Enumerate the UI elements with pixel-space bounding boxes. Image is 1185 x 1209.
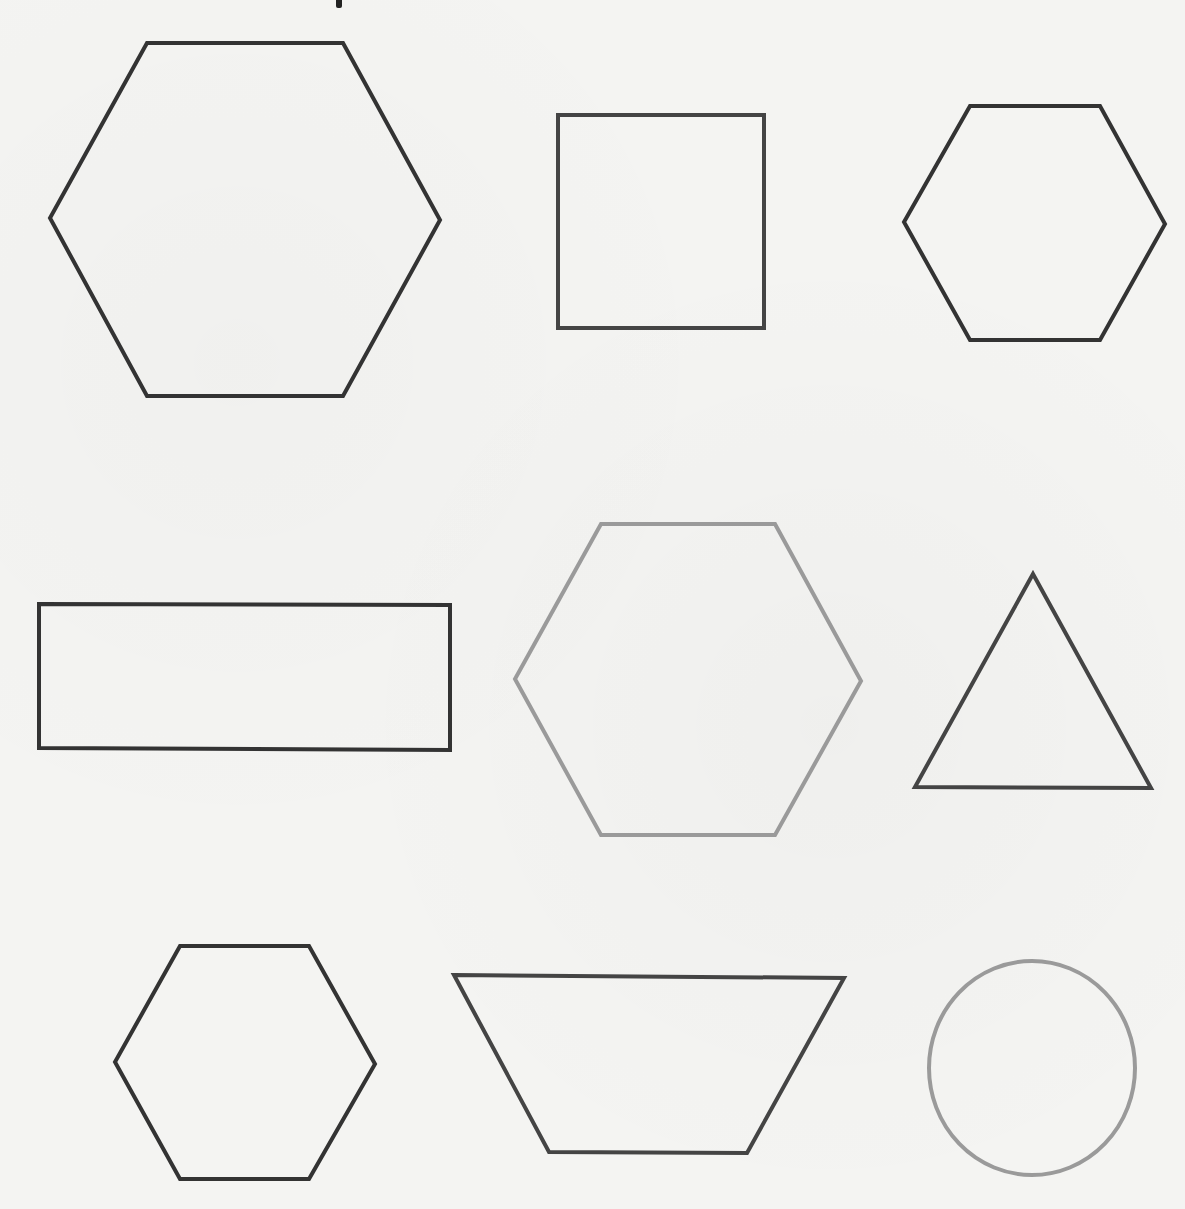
- large-hexagon: [50, 43, 440, 396]
- triangle: [915, 574, 1151, 788]
- trapezoid: [454, 975, 844, 1153]
- gray-circle: [929, 961, 1135, 1175]
- small-hexagon-top-right: [904, 106, 1165, 340]
- square: [558, 115, 764, 328]
- rectangle: [39, 604, 450, 750]
- small-hexagon-bottom-left: [115, 946, 375, 1179]
- worksheet-page: p: [0, 0, 1185, 1209]
- shapes-canvas: [0, 0, 1185, 1209]
- gray-hexagon-center: [515, 524, 861, 835]
